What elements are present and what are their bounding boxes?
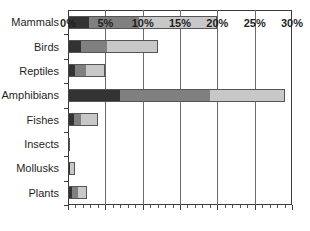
x-tick-minor bbox=[232, 205, 233, 208]
bar-segment-segment-3 bbox=[210, 89, 285, 102]
bar-segment-segment-1 bbox=[68, 138, 70, 151]
bar-row bbox=[68, 64, 292, 77]
y-tick bbox=[64, 59, 68, 60]
x-tick-minor bbox=[262, 205, 263, 208]
x-tick-minor bbox=[195, 205, 196, 208]
y-axis-category-labels: MammalsBirdsReptilesAmphibiansFishesInse… bbox=[0, 10, 64, 205]
bar-segment-segment-2 bbox=[75, 64, 85, 77]
x-tick-minor bbox=[270, 205, 271, 208]
x-tick-minor bbox=[225, 205, 226, 208]
y-category-label-mammals: Mammals bbox=[11, 16, 59, 28]
bar-segment-segment-2 bbox=[81, 40, 106, 53]
y-category-label-reptiles: Reptiles bbox=[19, 65, 59, 77]
y-tick bbox=[64, 83, 68, 84]
stacked-bar bbox=[68, 89, 285, 102]
bar-row bbox=[68, 89, 292, 102]
bar-segment-segment-3 bbox=[86, 64, 105, 77]
x-tick-label: 10% bbox=[132, 17, 154, 30]
x-tick-minor bbox=[150, 205, 151, 208]
stacked-bar bbox=[68, 138, 70, 151]
y-category-label-amphibians: Amphibians bbox=[2, 89, 59, 101]
x-tick-minor bbox=[135, 205, 136, 208]
bar-segment-segment-2 bbox=[120, 89, 210, 102]
x-tick-label: 30% bbox=[281, 17, 303, 30]
x-tick-major bbox=[68, 205, 69, 210]
y-tick bbox=[64, 156, 68, 157]
bar-segment-segment-1 bbox=[68, 89, 120, 102]
bar-segment-segment-1 bbox=[68, 64, 75, 77]
bar-row bbox=[68, 113, 292, 126]
x-axis-tick-labels: 0%5%10%15%20%25%30% bbox=[68, 17, 292, 33]
bar-segment-segment-2 bbox=[74, 113, 81, 126]
x-tick-minor bbox=[187, 205, 188, 208]
x-tick-minor bbox=[202, 205, 203, 208]
x-tick-label: 25% bbox=[244, 17, 266, 30]
x-tick-minor bbox=[98, 205, 99, 208]
x-tick-minor bbox=[90, 205, 91, 208]
bar-row bbox=[68, 138, 292, 151]
stacked-bar bbox=[68, 40, 158, 53]
x-tick-label: 15% bbox=[169, 17, 191, 30]
stacked-bar bbox=[68, 162, 75, 175]
bars-layer bbox=[68, 10, 292, 205]
y-tick bbox=[64, 108, 68, 109]
x-tick-minor bbox=[83, 205, 84, 208]
x-tick-minor bbox=[173, 205, 174, 208]
x-tick-minor bbox=[165, 205, 166, 208]
bar-segment-segment-3 bbox=[107, 40, 158, 53]
stacked-bar bbox=[68, 186, 87, 199]
stacked-bar bbox=[68, 113, 98, 126]
x-tick-minor bbox=[128, 205, 129, 208]
bar-segment-segment-3 bbox=[81, 113, 98, 126]
x-tick-minor bbox=[285, 205, 286, 208]
y-tick bbox=[64, 181, 68, 182]
y-category-label-plants: Plants bbox=[28, 187, 59, 199]
plot-area: 0%5%10%15%20%25%30% bbox=[68, 10, 292, 205]
stacked-bar-chart: MammalsBirdsReptilesAmphibiansFishesInse… bbox=[0, 0, 310, 231]
x-tick-major bbox=[143, 205, 144, 210]
x-tick-major bbox=[292, 205, 293, 210]
y-tick bbox=[64, 34, 68, 35]
y-category-label-birds: Birds bbox=[34, 41, 59, 53]
x-tick-minor bbox=[120, 205, 121, 208]
y-category-label-mollusks: Mollusks bbox=[16, 162, 59, 174]
bar-row bbox=[68, 162, 292, 175]
bar-row bbox=[68, 186, 292, 199]
y-category-label-fishes: Fishes bbox=[27, 114, 59, 126]
bar-segment-segment-3 bbox=[70, 162, 75, 175]
y-tick bbox=[64, 132, 68, 133]
x-tick-minor bbox=[75, 205, 76, 208]
x-tick-label: 0% bbox=[60, 17, 76, 30]
y-category-label-insects: Insects bbox=[24, 138, 59, 150]
x-tick-minor bbox=[247, 205, 248, 208]
x-tick-major bbox=[180, 205, 181, 210]
x-tick-major bbox=[217, 205, 218, 210]
x-tick-minor bbox=[210, 205, 211, 208]
stacked-bar bbox=[68, 64, 105, 77]
x-tick-major bbox=[105, 205, 106, 210]
x-tick-label: 5% bbox=[97, 17, 113, 30]
bar-row bbox=[68, 40, 292, 53]
x-tick-label: 20% bbox=[206, 17, 228, 30]
x-tick-minor bbox=[277, 205, 278, 208]
bar-segment-segment-1 bbox=[68, 40, 81, 53]
x-tick-minor bbox=[113, 205, 114, 208]
x-axis-ticks bbox=[68, 205, 292, 210]
x-tick-minor bbox=[158, 205, 159, 208]
x-tick-minor bbox=[240, 205, 241, 208]
x-tick-major bbox=[255, 205, 256, 210]
bar-segment-segment-3 bbox=[78, 186, 88, 199]
